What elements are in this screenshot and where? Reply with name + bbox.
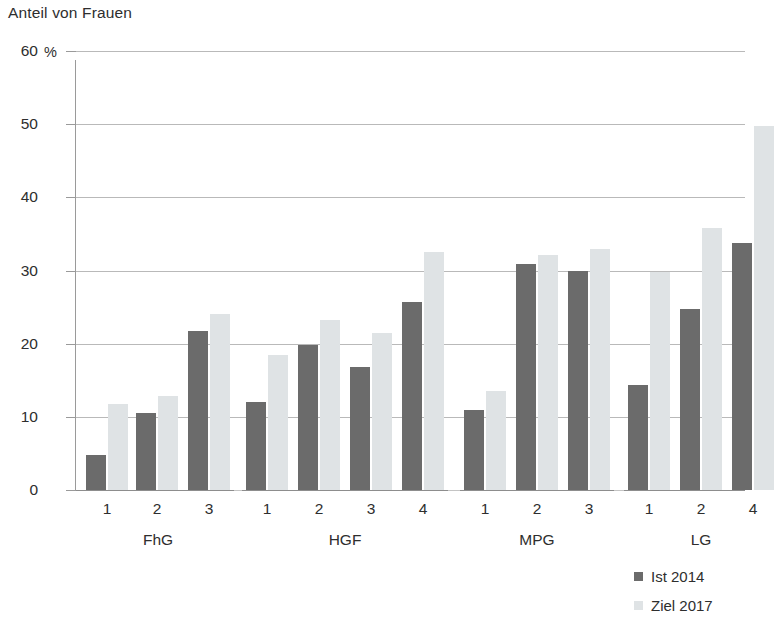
group-separator-2 xyxy=(614,490,624,491)
bar-ziel-2017-hgf-4 xyxy=(424,252,444,490)
x-tick-label-hgf-3: 3 xyxy=(349,500,393,518)
y-tick-mark-30 xyxy=(66,271,76,272)
bar-ziel-2017-hgf-2 xyxy=(320,320,340,490)
bar-ist-2014-hgf-3 xyxy=(350,367,370,490)
legend-item-ziel-2017[interactable]: Ziel 2017 xyxy=(634,591,713,620)
legend-swatch-icon xyxy=(634,572,643,581)
x-group-label-mpg: MPG xyxy=(477,531,597,549)
bar-ist-2014-hgf-1 xyxy=(246,402,266,490)
gridline-0 xyxy=(76,490,745,491)
bar-ziel-2017-hgf-3 xyxy=(372,333,392,490)
y-tick-label-10: 10 xyxy=(2,409,38,425)
y-tick-label-60: 60 xyxy=(2,43,38,59)
y-tick-label-30: 30 xyxy=(2,263,38,279)
gridline-60 xyxy=(76,51,745,52)
y-tick-mark-10 xyxy=(66,417,76,418)
y-tick-mark-50 xyxy=(66,124,76,125)
x-tick-label-hgf-2: 2 xyxy=(297,500,341,518)
bar-ist-2014-hgf-4 xyxy=(402,302,422,490)
y-tick-label-20: 20 xyxy=(2,336,38,352)
bar-ziel-2017-fhg-3 xyxy=(210,314,230,490)
bar-ziel-2017-mpg-3 xyxy=(590,249,610,490)
bar-ziel-2017-lg-1 xyxy=(650,272,670,490)
y-axis-tick-labels: 6050403020100 xyxy=(0,0,38,634)
y-tick-label-40: 40 xyxy=(2,189,38,205)
plot-area xyxy=(76,51,745,490)
bar-ist-2014-fhg-1 xyxy=(86,455,106,490)
bar-ist-2014-lg-2 xyxy=(680,309,700,490)
bar-ist-2014-mpg-2 xyxy=(516,264,536,490)
gridline-40 xyxy=(76,197,745,198)
x-tick-label-hgf-1: 1 xyxy=(245,500,289,518)
x-group-label-fhg: FhG xyxy=(98,531,218,549)
x-group-label-hgf: HGF xyxy=(285,531,405,549)
legend-label: Ziel 2017 xyxy=(651,597,713,614)
bar-ist-2014-fhg-2 xyxy=(136,413,156,490)
x-tick-label-fhg-2: 2 xyxy=(135,500,179,518)
bar-ist-2014-lg-4 xyxy=(732,243,752,490)
x-tick-label-lg-2: 2 xyxy=(679,500,723,518)
bar-ist-2014-fhg-3 xyxy=(188,331,208,490)
bar-ziel-2017-lg-4 xyxy=(754,126,774,490)
x-tick-label-mpg-1: 1 xyxy=(463,500,507,518)
gridline-50 xyxy=(76,124,745,125)
x-group-label-lg: LG xyxy=(641,531,761,549)
bar-ist-2014-lg-1 xyxy=(628,385,648,490)
bar-ziel-2017-hgf-1 xyxy=(268,355,288,490)
legend-swatch-icon xyxy=(634,601,643,610)
chart-legend: Ist 2014Ziel 2017 xyxy=(634,562,713,620)
bar-ziel-2017-mpg-2 xyxy=(538,255,558,490)
bar-ziel-2017-mpg-1 xyxy=(486,391,506,490)
x-tick-label-hgf-4: 4 xyxy=(401,500,445,518)
y-tick-mark-20 xyxy=(66,344,76,345)
y-tick-label-0: 0 xyxy=(2,482,38,498)
y-tick-mark-40 xyxy=(66,197,76,198)
bar-ziel-2017-lg-2 xyxy=(702,228,722,490)
y-tick-label-50: 50 xyxy=(2,116,38,132)
x-tick-label-fhg-1: 1 xyxy=(85,500,129,518)
y-axis-unit-label: % xyxy=(44,44,57,60)
gridline-30 xyxy=(76,271,745,272)
legend-label: Ist 2014 xyxy=(651,568,704,585)
bar-ist-2014-mpg-3 xyxy=(568,271,588,491)
legend-item-ist-2014[interactable]: Ist 2014 xyxy=(634,562,713,591)
x-tick-label-mpg-2: 2 xyxy=(515,500,559,518)
group-separator-0 xyxy=(234,490,242,491)
y-tick-mark-60 xyxy=(66,51,76,52)
x-tick-label-lg-4: 4 xyxy=(731,500,775,518)
x-tick-label-lg-1: 1 xyxy=(627,500,671,518)
x-tick-label-mpg-3: 3 xyxy=(567,500,611,518)
x-tick-label-fhg-3: 3 xyxy=(187,500,231,518)
bar-ziel-2017-fhg-2 xyxy=(158,396,178,490)
bar-ziel-2017-fhg-1 xyxy=(108,404,128,490)
y-tick-mark-0 xyxy=(66,490,76,491)
bar-ist-2014-mpg-1 xyxy=(464,410,484,490)
group-separator-1 xyxy=(448,490,460,491)
bar-ist-2014-hgf-2 xyxy=(298,345,318,490)
